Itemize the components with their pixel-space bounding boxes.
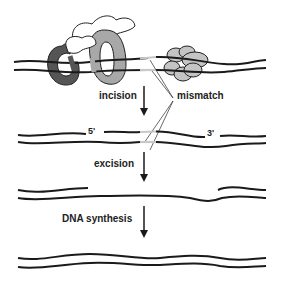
dna-synthesis-arrow [140, 206, 148, 238]
stage-4-repaired-dna [18, 254, 266, 268]
dna-strand-top-s3-right [218, 187, 266, 190]
dna-strand-top-mid [104, 132, 140, 133]
mismatch-stage2-top [140, 132, 156, 133]
incision-label: incision [99, 91, 137, 101]
dna-strand-top-s3-left [18, 188, 88, 192]
dna-strand-bottom-s3 [18, 196, 266, 202]
stage-1-dna-with-repair-complex [14, 16, 266, 85]
dna-strand-top-right2 [156, 131, 205, 137]
protein-small-cluster [164, 46, 208, 81]
three-prime-label: 3' [207, 129, 214, 138]
dna-strand-top-left [18, 133, 86, 136]
five-prime-label: 5' [88, 127, 95, 136]
mismatch-label: mismatch [177, 91, 224, 101]
stage-3-gapped-dna [18, 187, 266, 201]
dna-strand-top-s4 [18, 254, 266, 260]
incision-arrow [140, 86, 148, 116]
dna-synthesis-label: DNA synthesis [62, 214, 132, 224]
dna-strand-bottom-s2-left [18, 142, 140, 144]
mismatch-top-segment [140, 57, 156, 59]
dna-strand-top-far-right [220, 135, 266, 136]
protein-grey-ring [90, 30, 126, 84]
excision-label: excision [94, 159, 134, 169]
dna-strand-bottom [14, 70, 148, 73]
dna-strand-bottom-s2-right [156, 142, 266, 147]
excision-arrow [140, 152, 148, 182]
dna-strand-top [14, 58, 148, 63]
stage-2-nicked-dna [18, 131, 266, 147]
dna-strand-bottom-s4 [18, 263, 266, 268]
mismatch-repair-diagram [0, 0, 282, 292]
